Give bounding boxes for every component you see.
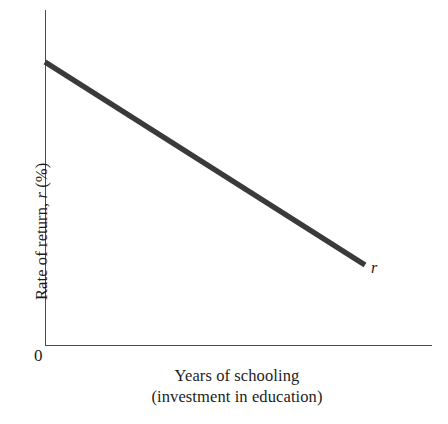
- rate-of-return-curve: [45, 62, 365, 265]
- y-axis-title-prefix: Rate of return,: [32, 199, 51, 300]
- x-axis-title: Years of schooling (investment in educat…: [97, 365, 377, 407]
- origin-label: 0: [34, 347, 43, 364]
- y-axis-title-symbol: r: [32, 192, 51, 199]
- economics-line-chart: Rate of return, r (%) 0 r Years of schoo…: [0, 0, 448, 424]
- curve-label-r: r: [371, 260, 377, 276]
- y-axis-title: Rate of return, r (%): [32, 0, 52, 300]
- x-axis-title-line-2: (investment in education): [97, 386, 377, 407]
- chart-plot-area: [0, 0, 448, 424]
- x-axis-title-line-1: Years of schooling: [97, 365, 377, 386]
- y-axis-title-suffix: (%): [32, 163, 51, 192]
